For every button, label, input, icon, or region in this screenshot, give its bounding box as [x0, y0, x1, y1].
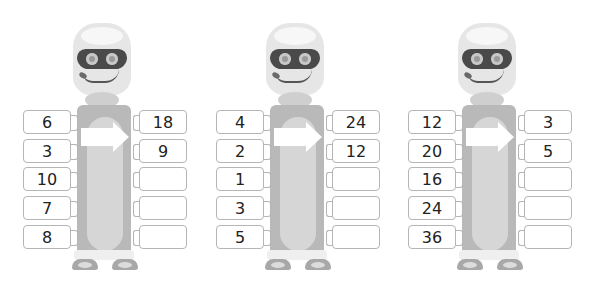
input-box: 3 [23, 139, 71, 163]
output-box[interactable] [524, 167, 572, 191]
eye-icon [299, 53, 311, 65]
connector-icon [71, 115, 78, 131]
connector-icon [456, 172, 463, 188]
robot-head [458, 23, 516, 95]
connector-icon [71, 144, 78, 160]
output-box: 9 [139, 139, 187, 163]
input-box: 8 [23, 225, 71, 249]
input-box: 6 [23, 110, 71, 134]
output-box[interactable] [332, 167, 380, 191]
connector-icon [264, 230, 271, 246]
connector-icon [71, 201, 78, 217]
input-box: 16 [408, 167, 456, 191]
input-box: 12 [408, 110, 456, 134]
eye-icon [491, 53, 503, 65]
connector-icon [264, 172, 271, 188]
connector-icon [456, 144, 463, 160]
output-box[interactable] [139, 225, 187, 249]
output-box: 5 [524, 139, 572, 163]
input-box: 1 [216, 167, 264, 191]
connector-icon [456, 201, 463, 217]
robot-foot-left [457, 259, 483, 270]
robot-foot-right [497, 259, 523, 270]
robot-foot-left [72, 259, 98, 270]
robot-visor [462, 49, 512, 69]
eye-icon [86, 53, 98, 65]
input-box: 5 [216, 225, 264, 249]
input-box: 7 [23, 196, 71, 220]
robot-visor [270, 49, 320, 69]
output-box[interactable] [332, 225, 380, 249]
function-machine-robot-3: 123205162436 [407, 0, 598, 285]
input-box: 24 [408, 196, 456, 220]
input-box: 4 [216, 110, 264, 134]
connector-icon [71, 230, 78, 246]
output-box[interactable] [139, 167, 187, 191]
right-arrow-icon [274, 122, 322, 152]
input-box: 3 [216, 196, 264, 220]
robot-foot-right [305, 259, 331, 270]
input-box: 10 [23, 167, 71, 191]
connector-icon [264, 201, 271, 217]
eye-icon [106, 53, 118, 65]
function-machine-robot-2: 424212135 [215, 0, 415, 285]
eye-icon [279, 53, 291, 65]
right-arrow-icon [466, 122, 514, 152]
output-box: 24 [332, 110, 380, 134]
robot-mouth [276, 69, 312, 83]
connector-icon [71, 172, 78, 188]
right-arrow-icon [81, 122, 129, 152]
output-box: 3 [524, 110, 572, 134]
connector-icon [264, 144, 271, 160]
robot-head [266, 23, 324, 95]
head-highlight [81, 27, 123, 45]
eye-icon [471, 53, 483, 65]
input-box: 36 [408, 225, 456, 249]
robot-visor [77, 49, 127, 69]
output-box[interactable] [524, 196, 572, 220]
output-box[interactable] [139, 196, 187, 220]
robot-mouth [83, 69, 119, 83]
head-highlight [274, 27, 316, 45]
robot-foot-right [112, 259, 138, 270]
input-box: 20 [408, 139, 456, 163]
connector-icon [456, 115, 463, 131]
robot-foot-left [265, 259, 291, 270]
output-box: 18 [139, 110, 187, 134]
connector-icon [264, 115, 271, 131]
connector-icon [456, 230, 463, 246]
head-highlight [466, 27, 508, 45]
output-box: 12 [332, 139, 380, 163]
input-box: 2 [216, 139, 264, 163]
output-box[interactable] [524, 225, 572, 249]
output-box[interactable] [332, 196, 380, 220]
robot-head [73, 23, 131, 95]
function-machine-robot-1: 618391078 [22, 0, 222, 285]
robot-mouth [468, 69, 504, 83]
